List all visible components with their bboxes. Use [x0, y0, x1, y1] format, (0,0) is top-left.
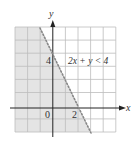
y-axis-arrow-icon [50, 20, 55, 27]
y-tick-label-4: 4 [46, 56, 51, 66]
origin-label: 0 [45, 110, 50, 120]
y-axis-label: y [49, 9, 53, 19]
inequality-graph [0, 0, 135, 148]
x-tick-label-2: 2 [72, 110, 77, 120]
x-axis-arrow-icon [119, 106, 126, 111]
x-axis-label: x [126, 103, 130, 113]
inequality-label: 2x + y < 4 [68, 56, 108, 66]
